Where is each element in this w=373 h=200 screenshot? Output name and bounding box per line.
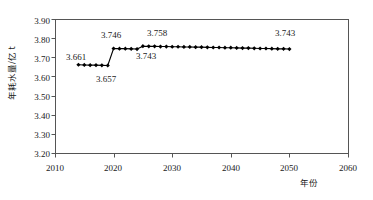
data-point: [235, 46, 239, 50]
data-point: [246, 46, 250, 50]
data-point: [229, 46, 233, 50]
data-point: [112, 46, 116, 50]
data-point: [287, 47, 291, 51]
series-line-0: [78, 46, 289, 65]
data-point: [217, 45, 221, 49]
data-point: [158, 44, 162, 48]
data-point: [281, 47, 285, 51]
data-point: [100, 63, 104, 67]
chart-container: 年耗水量/亿 t 3.90 3.80 3.70 3.60 3.50 3.40 3…: [0, 0, 373, 200]
data-point: [252, 46, 256, 50]
data-point: [223, 46, 227, 50]
data-point: [106, 63, 110, 67]
data-point: [141, 44, 145, 48]
data-point: [129, 47, 133, 51]
data-point: [88, 63, 92, 67]
data-point: [199, 45, 203, 49]
data-point: [176, 45, 180, 49]
data-point: [147, 44, 151, 48]
data-point: [117, 47, 121, 51]
data-point: [264, 46, 268, 50]
data-point: [94, 63, 98, 67]
data-point: [205, 45, 209, 49]
data-point: [211, 45, 215, 49]
data-point: [240, 46, 244, 50]
data-point: [182, 45, 186, 49]
data-point: [123, 47, 127, 51]
data-point: [164, 44, 168, 48]
data-point: [153, 44, 157, 48]
data-point: [188, 45, 192, 49]
data-point: [135, 47, 139, 51]
data-point: [82, 63, 86, 67]
data-point: [194, 45, 198, 49]
plot-frame: [56, 20, 349, 154]
data-point: [76, 63, 80, 67]
plot-area: [0, 0, 373, 200]
data-point: [258, 46, 262, 50]
data-point: [270, 47, 274, 51]
data-point: [276, 47, 280, 51]
data-point: [170, 45, 174, 49]
